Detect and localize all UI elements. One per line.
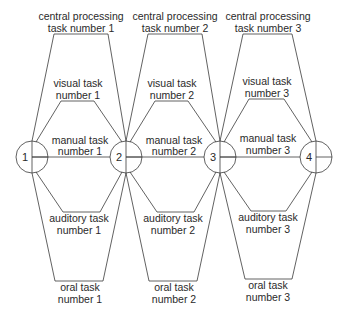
auditory-task-3-line1: auditory task [238, 211, 298, 223]
central-task-1-line1: central processing [38, 10, 123, 22]
visual-task-3-line2: number 3 [245, 87, 290, 99]
oral-task-3-line1: oral task [248, 279, 288, 291]
visual-task-1-line1: visual task [53, 77, 103, 89]
node-2-label: 2 [116, 151, 122, 163]
oral-task-2-line2: number 2 [152, 293, 197, 305]
stage-2-edges [126, 34, 220, 281]
edge-auditory-2 [130, 172, 216, 212]
auditory-task-2-line2: number 2 [151, 224, 196, 236]
visual-task-2-line1: visual task [147, 77, 197, 89]
diagram-canvas: 1 2 3 4 central processing task number 1… [0, 0, 348, 317]
visual-task-1-line2: number 1 [56, 89, 101, 101]
central-task-1-line2: task number 1 [48, 22, 115, 34]
edge-auditory-1 [36, 172, 122, 212]
stage-1-labels: central processing task number 1 visual … [38, 10, 123, 305]
node-2: 2 [110, 141, 142, 173]
manual-task-2-line2: number 2 [152, 145, 197, 157]
oral-task-2-line1: oral task [154, 281, 194, 293]
stage-3-labels: central processing task number 3 visual … [225, 10, 310, 303]
manual-task-1-line2: number 1 [58, 145, 103, 157]
stage-1-edges [32, 34, 126, 281]
manual-task-3-line2: number 3 [246, 144, 291, 156]
node-4-label: 4 [306, 151, 312, 163]
oral-task-1-line2: number 1 [58, 293, 103, 305]
auditory-task-1-line1: auditory task [49, 212, 109, 224]
oral-task-1-line1: oral task [60, 281, 100, 293]
visual-task-3-line1: visual task [242, 75, 292, 87]
central-task-3-line2: task number 3 [235, 22, 302, 34]
visual-task-2-line2: number 2 [150, 89, 195, 101]
manual-task-3-line1: manual task [240, 132, 297, 144]
node-4: 4 [300, 141, 332, 173]
stage-2-labels: central processing task number 2 visual … [132, 10, 217, 305]
task-network-diagram: 1 2 3 4 central processing task number 1… [0, 0, 348, 317]
central-task-2-line2: task number 2 [142, 22, 209, 34]
node-3: 3 [204, 141, 236, 173]
oral-task-3-line2: number 3 [246, 291, 291, 303]
auditory-task-1-line2: number 1 [57, 224, 102, 236]
node-3-label: 3 [210, 151, 216, 163]
auditory-task-3-line2: number 3 [246, 223, 291, 235]
node-1: 1 [16, 141, 48, 173]
node-1-label: 1 [22, 151, 28, 163]
central-task-2-line1: central processing [132, 10, 217, 22]
central-task-3-line1: central processing [225, 10, 310, 22]
auditory-task-2-line1: auditory task [143, 212, 203, 224]
edge-auditory-3 [224, 172, 312, 211]
stage-3-edges [220, 34, 316, 279]
